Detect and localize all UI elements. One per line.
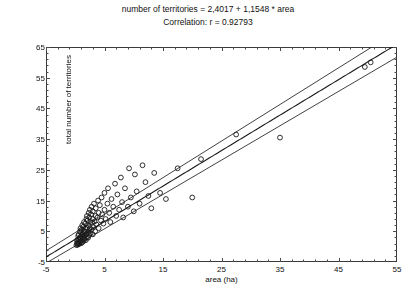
x-tick-label: 15 xyxy=(143,265,183,274)
y-tick-label: 35 xyxy=(5,135,45,144)
x-tick-label: -5 xyxy=(26,265,66,274)
y-tick-label: 55 xyxy=(5,73,45,82)
y-tick-label: 15 xyxy=(5,196,45,205)
x-axis-label: area (ha) xyxy=(46,275,397,284)
correlation-subtitle: Correlation: r = 0.92793 xyxy=(0,16,416,29)
x-tick-label: 25 xyxy=(202,265,242,274)
y-axis-label: total number of territories xyxy=(64,40,73,160)
x-tick-label: 35 xyxy=(260,265,300,274)
x-tick-label: 5 xyxy=(85,265,125,274)
x-tick-label: 45 xyxy=(319,265,359,274)
y-tick-label: 5 xyxy=(5,227,45,236)
chart-root: number of territories = 2,4017 + 1,1548 … xyxy=(0,0,416,303)
x-tick-label: 55 xyxy=(377,265,416,274)
chart-title-block: number of territories = 2,4017 + 1,1548 … xyxy=(0,3,416,29)
regression-equation-title: number of territories = 2,4017 + 1,1548 … xyxy=(0,3,416,16)
y-tick-label: 65 xyxy=(5,43,45,52)
plot-area: -55152535455565 -551525354555 total numb… xyxy=(46,47,397,262)
scatter-canvas xyxy=(46,47,397,262)
y-tick-label: 25 xyxy=(5,165,45,174)
y-tick-label: 45 xyxy=(5,104,45,113)
